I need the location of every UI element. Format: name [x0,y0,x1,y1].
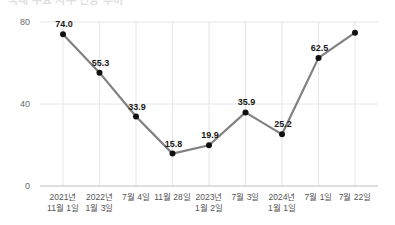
x-tick-label: 7월 4일 [122,192,150,202]
y-axis-tick-labels: 04080 [20,17,30,191]
x-axis-tick-labels: 2021년11월 1일2022년1월 3일7월 4일11월 28일2023년1월… [47,192,371,213]
data-point-label: 25.2 [274,119,292,129]
data-point [352,30,358,36]
data-point [133,114,139,120]
x-tick-label: 2022년 [86,192,113,202]
x-tick-label: 2023년 [196,192,223,202]
x-tick-label: 7월 3일 [232,192,260,202]
data-point [97,70,103,76]
data-point [206,142,212,148]
x-tick-label: 7월 1일 [305,192,333,202]
data-point [170,151,176,157]
data-point-label: 62.5 [311,43,329,53]
x-tick-label: 1월 3일 [86,203,114,213]
x-tick-label: 1월 1일 [268,203,296,213]
data-point-label: 55.3 [92,58,110,68]
y-tick-label: 40 [20,99,30,109]
data-point-label: 74.0 [55,19,73,29]
data-point [279,131,285,137]
x-tick-label: 11월 1일 [47,203,79,213]
x-tick-label: 2024년 [269,192,296,202]
y-tick-label: 80 [20,17,30,27]
data-point-label: 19.9 [201,130,219,140]
x-tick-label: 7월 22일 [339,192,372,202]
data-point [243,109,249,115]
data-point-labels: 74.055.333.915.819.935.925.262.5 [55,19,328,148]
data-point [60,31,66,37]
x-tick-label: 2021년 [50,192,77,202]
x-tick-label: 1월 2일 [195,203,223,213]
line-chart: 국내 주요 지수 변동 추이 04080 2021년11월 1일2022년1월 … [0,0,395,225]
data-point-label: 33.9 [128,102,146,112]
chart-canvas: 04080 2021년11월 1일2022년1월 3일7월 4일11월 28일2… [0,0,395,225]
data-point [316,55,322,61]
data-point-label: 15.8 [165,139,183,149]
x-tick-label: 11월 28일 [154,192,191,202]
data-point-label: 35.9 [238,97,256,107]
y-tick-label: 0 [25,181,30,191]
